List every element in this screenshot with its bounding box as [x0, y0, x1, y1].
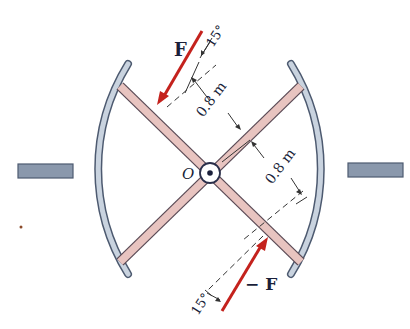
stray-dot: [20, 226, 23, 229]
pivot-label: O: [182, 165, 194, 183]
right-mount: [348, 163, 403, 177]
left-mount: [18, 164, 73, 178]
diagram-canvas: O F − F 15° 1: [0, 0, 410, 329]
force-top-label: F: [174, 39, 187, 60]
force-bottom-label: − F: [245, 274, 277, 294]
pivot-pin: [200, 163, 220, 183]
angle-top-label: 15°: [203, 22, 228, 49]
distance-upper-label: 0.8 m: [193, 78, 230, 120]
